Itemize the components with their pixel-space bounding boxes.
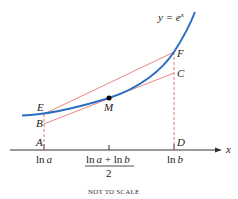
point-c-label: C <box>177 67 185 79</box>
point-m-dot <box>107 96 112 101</box>
curve-label: y = ex <box>157 11 185 23</box>
not-to-scale-note: NOT TO SCALE <box>88 188 139 196</box>
point-e-label: E <box>36 101 44 113</box>
tick-label-midpoint-denominator: 2 <box>106 167 112 179</box>
point-a-label: A <box>35 136 43 148</box>
diagram-canvas: x y = ex E B A M F C D lna lna + lnb 2 l… <box>0 0 238 199</box>
tick-label-ln-a: lna <box>36 153 53 165</box>
point-f-label: F <box>176 47 184 59</box>
point-b-label: B <box>36 117 43 129</box>
tick-label-midpoint-numerator: lna + lnb <box>86 153 130 165</box>
point-d-label: D <box>176 136 185 148</box>
tick-label-ln-b: lnb <box>167 153 184 165</box>
point-m-label: M <box>103 101 114 113</box>
x-axis-arrow-icon <box>215 148 222 153</box>
x-axis-label: x <box>225 143 231 155</box>
